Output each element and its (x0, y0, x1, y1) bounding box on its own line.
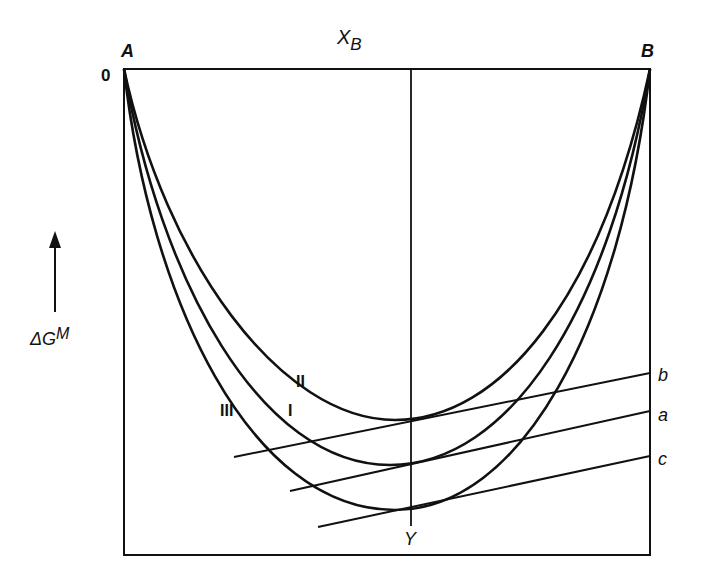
tangent-c-label: c (658, 449, 667, 469)
tangent-a-label: a (658, 405, 668, 425)
delta-g-superscript: M (56, 325, 70, 342)
delta-g-main: ΔG (29, 329, 56, 349)
gibbs-free-energy-diagram: 0 A B XB ΔGM II I III b a c Y (0, 0, 703, 579)
xb-main: X (336, 26, 351, 48)
curve-ii (124, 69, 650, 420)
curve-ii-label: II (296, 373, 305, 390)
tangent-line-c (318, 456, 650, 527)
corner-b-label: B (641, 41, 654, 61)
origin-label: 0 (101, 66, 110, 85)
composition-y-label: Y (404, 529, 418, 549)
curve-i-label: I (288, 402, 292, 419)
up-arrow-icon (49, 231, 61, 248)
delta-g-label: ΔGM (29, 325, 70, 349)
tangent-line-a (290, 411, 650, 491)
xb-subscript: B (350, 35, 361, 54)
tangent-b-label: b (658, 365, 668, 385)
top-axis-label: XB (336, 26, 362, 54)
curve-i (124, 69, 650, 465)
corner-a-label: A (120, 41, 134, 61)
curve-iii-label: III (220, 402, 233, 419)
